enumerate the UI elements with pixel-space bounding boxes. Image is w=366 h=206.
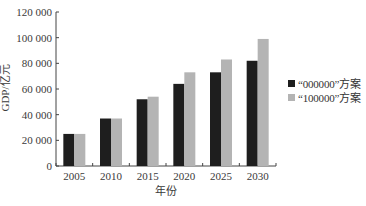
bar [247,61,258,166]
y-tick-label: 40 000 [22,109,53,121]
y-tick-label: 0 [47,160,53,172]
x-tick-label: 2030 [247,170,270,182]
y-tick-label: 80 000 [22,57,53,69]
bar [258,39,269,166]
bar [148,97,159,166]
y-tick-label: 20 000 [22,134,53,146]
y-axis: 020 00040 00060 00080 000100 000120 000 [16,6,59,172]
legend-item-000000: “000000”方案 [288,76,361,90]
legend-swatch-dark [288,80,295,87]
bar [74,134,85,166]
x-tick-label: 2015 [137,170,160,182]
y-axis-label: GDP/亿元 [0,64,11,111]
legend-label: “100000”方案 [298,89,361,105]
bars [63,39,268,166]
x-tick-label: 2010 [100,170,123,182]
bar [221,59,232,166]
x-tick-label: 2025 [210,170,233,182]
x-axis: 200520102015202020252030 [56,163,276,182]
bar [137,99,148,166]
legend-swatch-gray [288,94,295,101]
x-axis-label: 年份 [155,184,177,197]
bar [173,84,184,166]
legend: “000000”方案 “100000”方案 [288,76,361,104]
bar [210,72,221,166]
bar [111,119,122,166]
bar [184,72,195,166]
x-tick-label: 2020 [173,170,196,182]
y-tick-label: 100 000 [16,32,52,44]
figure-caption-cropped [60,200,320,206]
x-tick-label: 2005 [63,170,86,182]
y-tick-label: 120 000 [16,6,52,18]
legend-item-100000: “100000”方案 [288,90,361,104]
y-tick-label: 60 000 [22,83,53,95]
bar [100,119,111,166]
bar [63,134,74,166]
